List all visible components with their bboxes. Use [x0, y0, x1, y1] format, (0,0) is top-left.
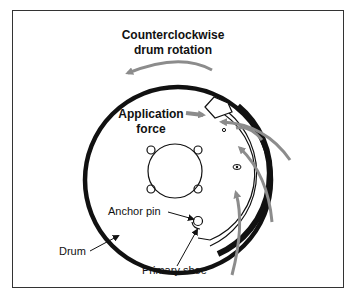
- drum-label: Drum: [59, 245, 86, 257]
- anchor-pin-label: Anchor pin: [108, 205, 161, 217]
- bolt-hole: [147, 146, 155, 154]
- bolt-hole: [147, 185, 155, 193]
- title-line2: drum rotation: [118, 43, 228, 58]
- title-line1: Counterclockwise: [118, 28, 228, 43]
- anchor-pin: [194, 217, 203, 226]
- rotation-title: Counterclockwise drum rotation: [118, 28, 228, 58]
- application-force-label: Application force: [115, 107, 187, 137]
- primary-shoe-leader: [177, 230, 197, 266]
- anchor-pin-leader: [168, 212, 193, 219]
- app-force-line1: Application: [115, 107, 187, 122]
- force-arrow-icon: [232, 193, 240, 275]
- rotation-arrow-icon: [128, 62, 212, 73]
- bolt-hole: [194, 146, 202, 154]
- app-force-line2: force: [115, 122, 187, 137]
- primary-shoe-label: Primary shoe: [142, 264, 207, 276]
- application-force-arrow-icon: [186, 113, 203, 115]
